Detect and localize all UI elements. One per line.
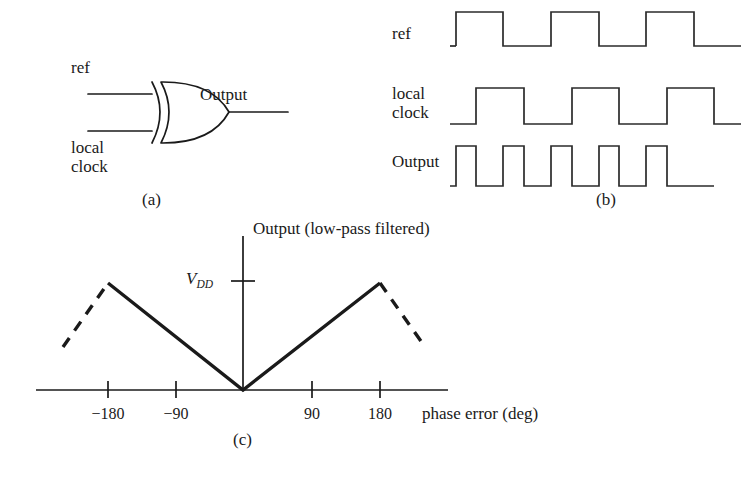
y-axis-label: Output (low-pass filtered): [253, 219, 430, 239]
vdd-subscript: DD: [196, 278, 213, 290]
panel-c-caption: (c): [233, 430, 252, 450]
figure-container: ref local clock Output (a) ref local clo…: [0, 0, 747, 487]
xtick-label-neg90: −90: [141, 405, 211, 423]
xtick-label-neg180: −180: [68, 405, 148, 423]
xtick-label-90: 90: [282, 405, 342, 423]
characteristic-solid: [108, 283, 380, 390]
characteristic-dashed-right: [380, 283, 425, 347]
vdd-axis-marker: VDD: [186, 269, 213, 290]
x-axis-label: phase error (deg): [422, 404, 538, 424]
xtick-label-180: 180: [345, 405, 415, 423]
characteristic-dashed-left: [63, 283, 108, 347]
vdd-symbol: V: [186, 269, 196, 288]
